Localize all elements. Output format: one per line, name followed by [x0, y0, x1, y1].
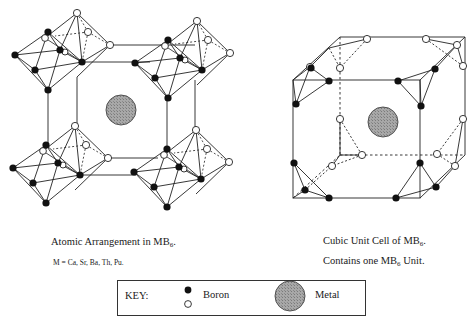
metal-atom-left	[106, 95, 136, 125]
right-unit-cell	[290, 35, 466, 201]
metal-list-note: M = Ca, Sr, Ba, Th, Pu.	[53, 258, 124, 267]
right-caption-line2-text: Contains one MB	[323, 255, 397, 266]
right-caption-line1-text: Cubic Unit Cell of MB	[323, 235, 420, 246]
right-caption-line1: Cubic Unit Cell of MB6.	[323, 235, 426, 248]
legend-key-label: KEY:	[125, 290, 149, 301]
right-caption-line2: Contains one MB6 Unit.	[323, 255, 425, 268]
legend-boron-label: Boron	[203, 289, 229, 300]
left-atomic-arrangement	[9, 9, 233, 210]
left-caption-tail: .	[173, 236, 176, 247]
legend-metal-label: Metal	[315, 289, 340, 300]
right-caption-line1-tail: .	[423, 235, 426, 246]
metal-atom-right	[368, 107, 398, 137]
left-caption-text: Atomic Arrangement in MB	[51, 236, 170, 247]
left-caption: Atomic Arrangement in MB6.	[51, 236, 176, 249]
right-caption-line2-tail: Unit.	[401, 255, 425, 266]
